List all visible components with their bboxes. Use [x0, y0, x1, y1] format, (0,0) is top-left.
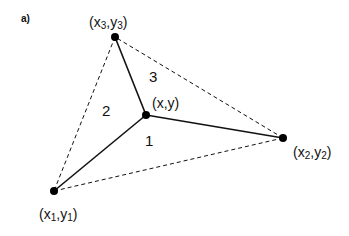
vertex-label-p2: (x2,y2): [293, 144, 331, 161]
region-label-2: 2: [102, 102, 110, 119]
solid-edge-p-p3: [115, 37, 146, 115]
dashed-edge-p1-p2: [54, 138, 283, 191]
vertex-dot-p2: [279, 134, 287, 142]
vertex-dot-p3: [111, 33, 119, 41]
solid-edge-p-p1: [54, 115, 146, 191]
vertex-dot-p1: [50, 187, 58, 195]
dashed-edge-p2-p3: [115, 37, 283, 138]
panel-label: a): [21, 13, 30, 24]
vertex-label-p3: (x3,y3): [89, 14, 127, 31]
interior-point-dot: [142, 111, 150, 119]
solid-edge-p-p2: [146, 115, 283, 138]
triangle-diagram: a) (x3,y3) (x2,y2) (x1,y1) (x,y) 3 2 1: [0, 0, 349, 236]
vertex-label-p1: (x1,y1): [39, 206, 77, 223]
region-label-3: 3: [149, 68, 157, 85]
interior-point-label: (x,y): [152, 95, 179, 111]
region-label-1: 1: [145, 132, 153, 149]
